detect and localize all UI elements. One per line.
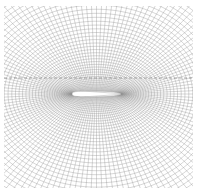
airfoil-mesh-figure <box>0 0 203 194</box>
mesh-grid <box>0 0 203 194</box>
mesh-plot <box>0 0 203 194</box>
